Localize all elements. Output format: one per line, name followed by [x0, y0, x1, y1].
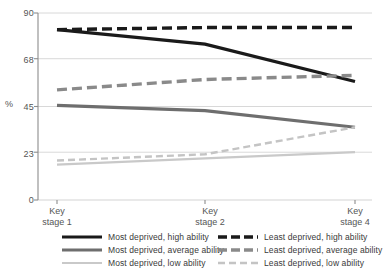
legend-item-least-deprived-low-ability: Least deprived, low ability [218, 257, 382, 269]
y-tick-label-68: 68 [8, 55, 34, 65]
x-tick-label-key-stage-1: Key stage 1 [22, 206, 92, 227]
x-tick-label-key-stage-2: Key stage 2 [175, 206, 245, 227]
legend-label-most-deprived-average-ability: Most deprived, average ability [108, 245, 224, 255]
series-line-least-deprived-high-ability [57, 28, 355, 30]
legend-item-most-deprived-high-ability: Most deprived, high ability [62, 231, 224, 243]
legend-item-most-deprived-low-ability: Most deprived, low ability [62, 257, 224, 269]
x-tick-label-key-stage-1-line2: stage 1 [22, 217, 92, 228]
legend-swatch-most-deprived-average-ability [62, 244, 102, 256]
series-line-most-deprived-high-ability [57, 30, 355, 82]
legend-swatch-least-deprived-low-ability [218, 257, 258, 269]
legend-swatch-least-deprived-high-ability [218, 231, 258, 243]
series-lines [57, 28, 355, 165]
legend-item-least-deprived-high-ability: Least deprived, high ability [218, 231, 382, 243]
legend-item-least-deprived-average-ability: Least deprived, average ability [218, 244, 382, 256]
legend-swatch-most-deprived-low-ability [62, 257, 102, 269]
series-line-least-deprived-average-ability [57, 75, 355, 90]
legend-column-least-deprived: Least deprived, high ability Least depri… [218, 231, 382, 270]
legend-label-least-deprived-average-ability: Least deprived, average ability [264, 245, 382, 255]
y-tick-label-45: 45 [8, 102, 34, 112]
x-tick-label-key-stage-2-line2: stage 2 [175, 217, 245, 228]
x-tick-label-key-stage-1-line1: Key [22, 206, 92, 217]
y-tick-label-0: 0 [8, 195, 34, 205]
legend-label-most-deprived-high-ability: Most deprived, high ability [108, 232, 209, 242]
x-tick-label-key-stage-4: Key stage 4 [320, 206, 387, 227]
legend-swatch-most-deprived-high-ability [62, 231, 102, 243]
series-line-most-deprived-average-ability [57, 105, 355, 127]
series-line-least-deprived-low-ability [57, 127, 355, 160]
legend-label-most-deprived-low-ability: Most deprived, low ability [108, 258, 206, 268]
legend-label-least-deprived-high-ability: Least deprived, high ability [264, 232, 367, 242]
legend-column-most-deprived: Most deprived, high ability Most deprive… [62, 231, 224, 270]
y-tick-label-90: 90 [8, 8, 34, 18]
legend-item-most-deprived-average-ability: Most deprived, average ability [62, 244, 224, 256]
x-tick-label-key-stage-4-line2: stage 4 [320, 217, 387, 228]
legend-swatch-least-deprived-average-ability [218, 244, 258, 256]
chart-legend: Most deprived, high ability Most deprive… [0, 231, 380, 270]
legend-label-least-deprived-low-ability: Least deprived, low ability [264, 258, 364, 268]
x-tick-label-key-stage-4-line1: Key [320, 206, 387, 217]
y-tick-label-23: 23 [8, 149, 34, 159]
x-tick-label-key-stage-2-line1: Key [175, 206, 245, 217]
